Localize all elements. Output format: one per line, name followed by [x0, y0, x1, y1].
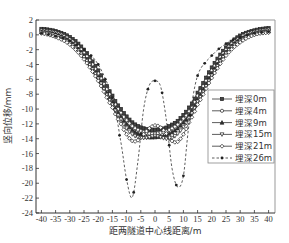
x-tick-label: 30: [236, 214, 245, 224]
legend-label: 埋深15m: [235, 129, 272, 139]
y-tick-label: 2: [29, 15, 33, 25]
x-tick-label: -20: [93, 214, 104, 224]
x-tick-label: -5: [137, 214, 144, 224]
line-chart: 20-2-4-6-8-10-12-14-16-18-20-22-24 -40-3…: [0, 0, 289, 243]
y-tick-label: -4: [26, 60, 34, 70]
legend-label: 埋深21m: [235, 141, 272, 151]
x-tick-label: -25: [78, 214, 89, 224]
y-tick-label: -14: [22, 134, 34, 144]
legend-label: 埋深26m: [235, 153, 272, 163]
y-tick-label: -18: [22, 163, 33, 173]
y-tick-label: -22: [22, 193, 33, 203]
x-tick-label: 25: [222, 214, 231, 224]
x-tick-label: -35: [50, 214, 61, 224]
x-axis-ticks: -40-35-30-25-20-15-10-50510152025303540: [36, 210, 273, 224]
x-tick-label: -10: [121, 214, 132, 224]
x-tick-label: 15: [193, 214, 202, 224]
legend: 埋深0m埋深4m埋深9m埋深15m埋深21m埋深26m: [208, 90, 274, 163]
legend-label: 埋深9m: [235, 118, 267, 128]
x-tick-label: 40: [264, 214, 273, 224]
y-tick-label: -24: [22, 208, 34, 218]
legend-label: 埋深0m: [235, 94, 267, 104]
x-tick-label: 20: [208, 214, 217, 224]
legend-label: 埋深4m: [235, 106, 267, 116]
x-tick-label: -15: [107, 214, 118, 224]
x-tick-label: 35: [250, 214, 259, 224]
x-tick-label: 5: [167, 214, 171, 224]
y-axis-title: 竖向位移/mm: [2, 88, 13, 145]
y-tick-label: -12: [22, 119, 33, 129]
y-tick-label: -6: [26, 74, 33, 84]
x-tick-label: -40: [36, 214, 47, 224]
y-tick-label: -8: [26, 89, 33, 99]
x-tick-label: -30: [64, 214, 75, 224]
y-tick-label: -2: [26, 45, 33, 55]
x-tick-label: 10: [179, 214, 188, 224]
y-tick-label: -20: [22, 178, 33, 188]
y-tick-label: 0: [29, 30, 33, 40]
x-tick-label: 0: [153, 214, 157, 224]
y-tick-label: -16: [22, 149, 33, 159]
y-tick-label: -10: [22, 104, 33, 114]
x-axis-title: 距两隧道中心线距离/m: [109, 225, 202, 236]
